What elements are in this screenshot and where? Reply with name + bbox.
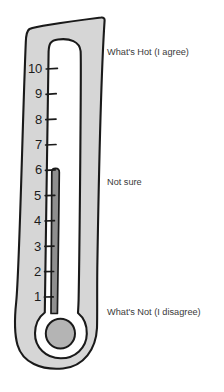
anchor-label-hot: What's Hot (I agree) [107, 47, 189, 58]
scale-number-7: 7 [20, 138, 42, 151]
scale-number-2: 2 [19, 265, 41, 278]
scale-number-3: 3 [19, 240, 41, 253]
mercury-column [51, 168, 59, 313]
anchor-label-cold: What's Not (I disagree) [107, 307, 201, 318]
tick-10 [46, 68, 57, 69]
scale-number-10: 10 [20, 62, 42, 75]
scale-number-4: 4 [19, 214, 41, 227]
scale-number-9: 9 [20, 87, 42, 100]
anchor-label-neutral: Not sure [107, 177, 142, 188]
scale-number-1: 1 [19, 290, 41, 303]
scale-number-8: 8 [20, 113, 42, 126]
tick-7 [46, 145, 56, 146]
thermometer-figure: 10 9 8 7 6 5 4 3 2 1 What's Hot (I agree… [0, 0, 224, 392]
tick-9 [46, 94, 56, 95]
scale-number-6: 6 [20, 163, 42, 176]
tick-8 [46, 119, 56, 120]
scale-number-5: 5 [19, 189, 41, 202]
mercury-bulb [46, 319, 75, 349]
